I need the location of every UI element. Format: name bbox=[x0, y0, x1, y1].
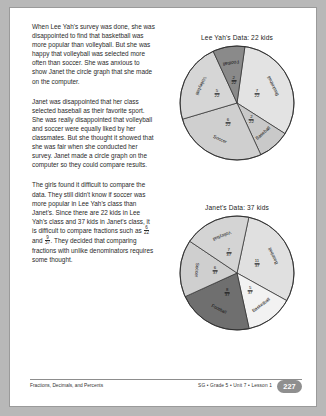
footer-lesson-reference: SG • Grade 5 • Unit 7 • Lesson 1 bbox=[198, 383, 272, 388]
paragraph-3-text-end: . They decided that comparing fractions … bbox=[32, 237, 153, 263]
janet-pie-chart: Janet's Data: 37 kids Baseball1137Basket… bbox=[162, 204, 312, 331]
lee-yah-chart-title: Lee Yah's Data: 22 kids bbox=[162, 34, 312, 41]
footer-divider bbox=[30, 379, 302, 380]
worksheet-page: When Lee Yah's survey was done, she was … bbox=[9, 7, 317, 407]
text-column: When Lee Yah's survey was done, she was … bbox=[32, 22, 156, 275]
page-number-badge: 227 bbox=[277, 380, 302, 393]
janet-pie-graphic: Baseball1137Basketball537Football837Socc… bbox=[179, 215, 295, 331]
fraction-six-twentyseconds: 622 bbox=[144, 226, 149, 236]
paragraph-3: The girls found it difficult to compare … bbox=[32, 180, 156, 263]
lee-yah-pie-chart: Lee Yah's Data: 22 kids Basketball722Bas… bbox=[162, 34, 312, 161]
janet-chart-title: Janet's Data: 37 kids bbox=[162, 204, 312, 211]
paragraph-2: Janet was disappointed that her class se… bbox=[32, 97, 156, 170]
fraction-nine-thirtysevenths: 937 bbox=[45, 236, 50, 246]
paragraph-3-text-start: The girls found it difficult to compare … bbox=[32, 181, 150, 233]
page-footer: Fractions, Decimals, and Percents SG • G… bbox=[30, 379, 302, 395]
paragraph-3-conjunction: and bbox=[32, 237, 44, 244]
lee-yah-pie-graphic: Basketball722Baseball222Soccer622Volleyb… bbox=[179, 45, 295, 161]
footer-unit-title: Fractions, Decimals, and Percents bbox=[30, 383, 103, 388]
paragraph-1: When Lee Yah's survey was done, she was … bbox=[32, 22, 156, 86]
page-content: When Lee Yah's survey was done, she was … bbox=[10, 8, 316, 406]
